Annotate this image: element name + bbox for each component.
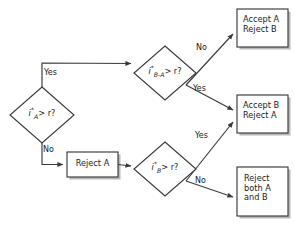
edge-yes-d1-to-d2 (42, 63, 131, 87)
edge-no-d2-to-accept-a (186, 34, 233, 85)
box-accept-a-reject-b[interactable] (237, 9, 288, 47)
edge-no-d1-to-reject-a (42, 143, 63, 165)
edge-no-d3-to-reject-both (186, 181, 233, 197)
decision-ib-gt-r[interactable] (134, 142, 196, 196)
flowchart-svg (0, 0, 294, 234)
box-reject-both[interactable] (237, 167, 288, 216)
box-accept-b-reject-a[interactable] (237, 95, 288, 133)
flowchart-canvas: i*A> r? i*B-A> r? i*B> r? Reject A Accep… (0, 0, 294, 234)
box-reject-a[interactable] (67, 152, 118, 177)
decision-ia-gt-r[interactable] (10, 87, 74, 143)
node-layer (10, 9, 288, 216)
edge-yes-d2-to-accept-b (186, 85, 233, 110)
decision-iba-gt-r[interactable] (134, 46, 196, 100)
